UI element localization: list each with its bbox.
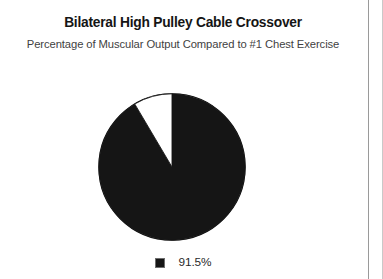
pie-chart <box>98 93 246 241</box>
square-marker-icon <box>155 258 165 268</box>
chart-subtitle: Percentage of Muscular Output Compared t… <box>5 37 360 51</box>
chart-page: Bilateral High Pulley Cable Crossover Pe… <box>0 0 383 279</box>
chart-legend: 91.5% <box>0 256 366 269</box>
pie-chart-plot-area <box>0 80 366 250</box>
legend-item-label: 91.5% <box>179 256 212 269</box>
chart-header: Bilateral High Pulley Cable Crossover Pe… <box>0 14 366 51</box>
legend-item[interactable]: 91.5% <box>155 256 212 269</box>
chart-title: Bilateral High Pulley Cable Crossover <box>9 14 357 31</box>
page-edge-rule <box>368 0 369 279</box>
